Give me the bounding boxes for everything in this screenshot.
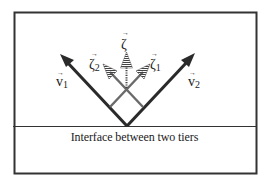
label-zeta2-subscript: 2 xyxy=(95,62,100,73)
label-zeta2: ζ2 xyxy=(89,58,100,73)
interface-caption: Interface between two tiers xyxy=(0,130,269,145)
zeta-vector-mark: → xyxy=(122,30,129,37)
label-zeta1: ζ1 xyxy=(150,58,161,73)
label-zeta-symbol: ζ xyxy=(121,37,127,52)
label-v1-subscript: 1 xyxy=(63,79,68,90)
label-v2: v2 xyxy=(188,75,200,90)
label-v1: v1 xyxy=(56,75,68,90)
label-zeta: ζ xyxy=(121,38,127,52)
diagram-canvas xyxy=(0,0,269,185)
vector-v2-arrow xyxy=(127,53,195,126)
label-zeta1-subscript: 1 xyxy=(156,62,161,73)
label-v2-subscript: 2 xyxy=(195,79,200,90)
label-v2-symbol: v xyxy=(188,74,195,89)
frame-border xyxy=(15,13,257,174)
vector-zeta-arrow xyxy=(121,52,133,88)
label-v1-symbol: v xyxy=(56,74,63,89)
